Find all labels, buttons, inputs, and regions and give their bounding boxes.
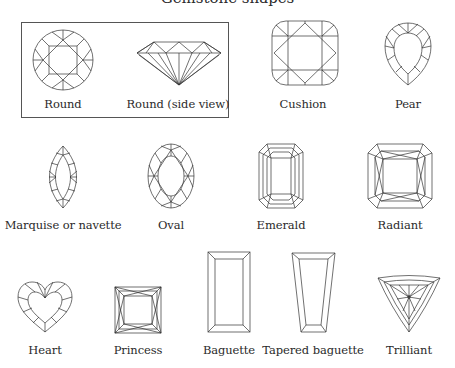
round-side-view-icon <box>136 41 222 86</box>
label-cushion: Cushion <box>280 97 327 111</box>
label-heart: Heart <box>28 343 61 357</box>
label-pear: Pear <box>395 97 421 111</box>
radiant-cut-icon <box>367 143 433 209</box>
label-oval: Oval <box>158 218 184 232</box>
label-round: Round <box>44 97 81 111</box>
label-princess: Princess <box>114 343 163 357</box>
princess-cut-icon <box>114 286 162 334</box>
heart-cut-icon <box>17 281 73 333</box>
emerald-cut-icon <box>258 143 304 209</box>
marquise-cut-icon <box>46 145 80 209</box>
label-baguette: Baguette <box>203 343 255 357</box>
label-round-side-view: Round (side view) <box>127 97 230 111</box>
label-tapered-baguette: Tapered baguette <box>262 343 363 357</box>
label-marquise: Marquise or navette <box>5 218 122 232</box>
diagram-title: Gemstone shapes <box>0 0 455 6</box>
trilliant-cut-icon <box>375 275 443 333</box>
tapered-baguette-cut-icon <box>291 252 336 333</box>
label-trilliant: Trilliant <box>386 343 432 357</box>
label-emerald: Emerald <box>257 218 306 232</box>
cushion-cut-icon <box>271 20 339 86</box>
baguette-cut-icon <box>207 251 251 333</box>
oval-cut-icon <box>147 143 195 209</box>
round-cut-icon <box>32 29 94 91</box>
pear-cut-icon <box>384 22 432 86</box>
label-radiant: Radiant <box>377 218 422 232</box>
